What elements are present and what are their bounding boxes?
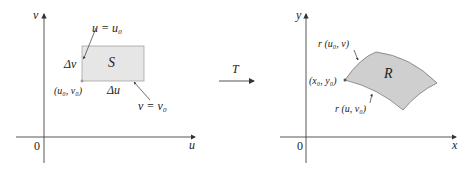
right-axes [280,14,456,163]
corner-label-left: (u₀, v₀) [54,86,82,96]
corner-point-left [81,80,84,83]
curve-bottom-label: r (u, v₀) [335,104,366,114]
right-origin-label: 0 [297,140,303,152]
line-v-label: v = v₀ [138,100,167,112]
region-s-label: S [108,56,115,70]
corner-point-right [344,79,347,82]
left-x-axis-label: u [189,139,195,151]
delta-v-label: Δv [64,58,76,70]
left-origin-label: 0 [34,140,40,152]
delta-u-label: Δu [107,84,120,96]
curve-top-label: r (u₀, v) [318,39,349,49]
region-r-label: R [384,67,393,81]
line-u-label: u = u₀ [92,22,122,34]
right-y-axis-label: y [296,9,301,21]
left-y-axis-label: v [33,9,38,21]
region-r [345,52,437,110]
left-axes [16,14,195,163]
right-x-axis-label: x [452,139,457,151]
transform-label: T [232,63,239,75]
corner-label-right: (x₀, y₀) [309,76,337,86]
